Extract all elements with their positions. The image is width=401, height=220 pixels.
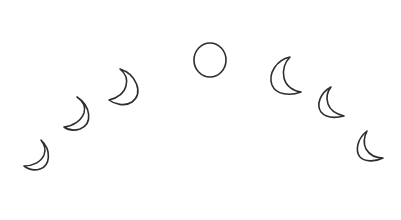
- waxing-crescent-moon-icon: [64, 97, 89, 130]
- moon-phases-illustration: [0, 0, 401, 220]
- waning-crescent-moon-icon: [319, 87, 344, 117]
- waxing-crescent-thin-moon-icon: [24, 140, 48, 170]
- full-moon-moon-icon: [194, 43, 226, 77]
- waning-crescent-thin-moon-icon: [357, 131, 383, 161]
- waning-crescent-wide-moon-icon: [271, 57, 301, 94]
- moon-phases-drawing: [0, 0, 401, 220]
- waxing-crescent-wide-moon-icon: [109, 69, 138, 105]
